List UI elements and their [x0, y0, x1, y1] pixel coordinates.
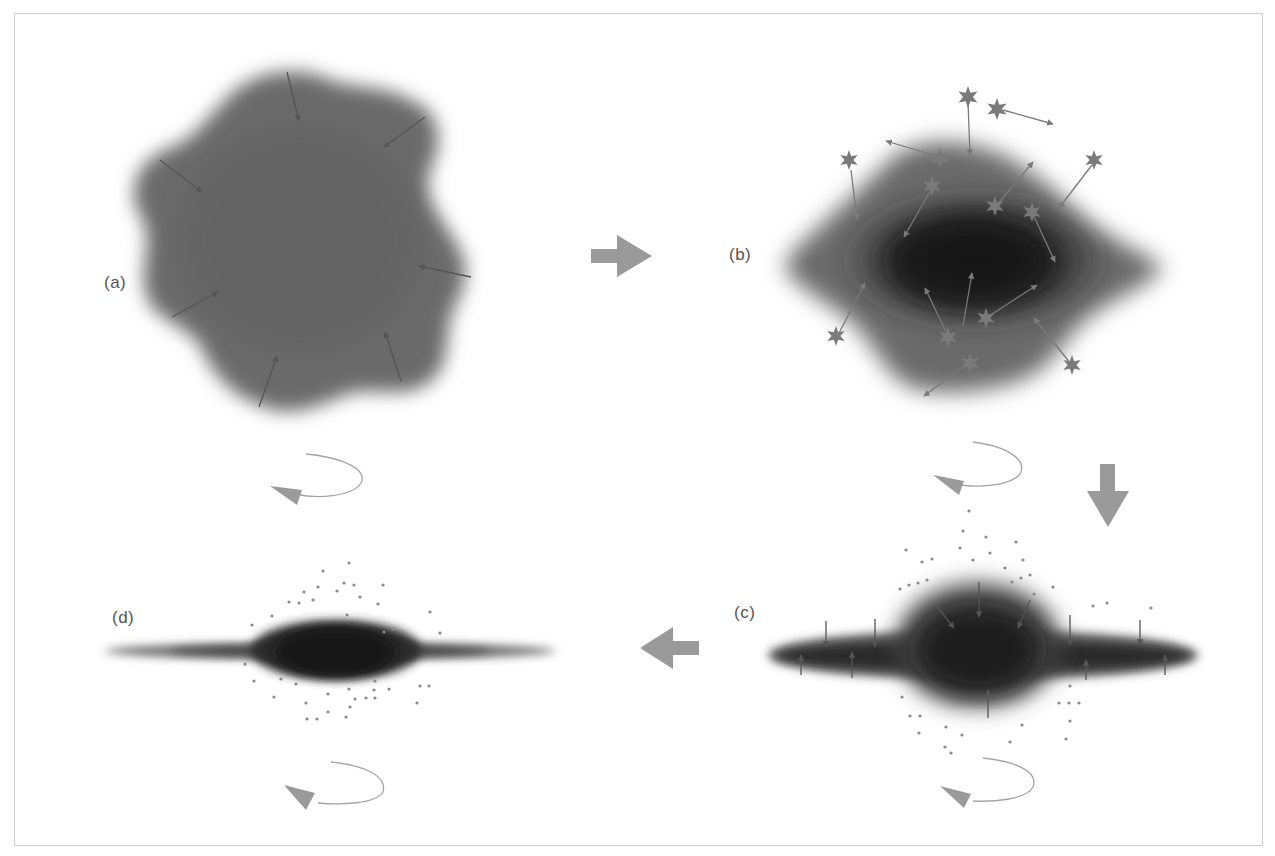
panel-a-label: (a)	[104, 273, 126, 293]
rotation-icon-a	[270, 454, 362, 505]
panel-d-label: (d)	[112, 608, 134, 628]
panel-c-disk	[768, 583, 1198, 707]
panel-d-galaxy	[105, 620, 555, 680]
flow-arrow-b-to-c	[1087, 464, 1129, 527]
rotation-icon-d	[284, 762, 384, 810]
panel-a-cloud	[134, 72, 465, 412]
panel-b-cloud	[785, 142, 1163, 393]
flow-arrow-a-to-b	[591, 235, 652, 277]
galaxy-formation-diagram	[0, 0, 1275, 856]
panel-b-label: (b)	[729, 245, 751, 265]
rotation-icon-b	[933, 442, 1022, 495]
rotation-icon-c	[940, 758, 1034, 808]
panel-c-label: (c)	[734, 603, 755, 623]
flow-arrow-c-to-d	[640, 627, 699, 669]
